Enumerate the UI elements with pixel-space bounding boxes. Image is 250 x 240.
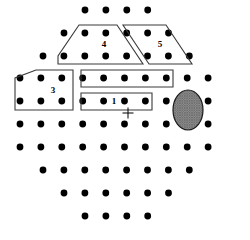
lattice-dot bbox=[82, 190, 89, 197]
lattice-dot bbox=[82, 30, 89, 37]
lattice-dot bbox=[58, 75, 65, 82]
lattice-dot bbox=[79, 121, 86, 128]
lattice-dot bbox=[17, 98, 24, 105]
lattice-dot bbox=[61, 53, 68, 60]
lattice-dot bbox=[81, 167, 88, 174]
lattice-dot bbox=[82, 213, 89, 220]
lattice-dot bbox=[121, 144, 128, 151]
lattice-dot bbox=[58, 144, 65, 151]
lattice-dot bbox=[103, 213, 110, 220]
lattice-dot bbox=[186, 167, 193, 174]
lattice-dot bbox=[61, 30, 68, 37]
dot-lattice-diagram: 12345 bbox=[0, 0, 250, 240]
figure-canvas: 12345 bbox=[0, 0, 250, 240]
lattice-dot bbox=[102, 190, 109, 197]
lattice-dot bbox=[100, 75, 107, 82]
region-labels: 12345 bbox=[51, 39, 163, 106]
lattice-dot bbox=[184, 144, 191, 151]
lattice-dot bbox=[144, 30, 151, 37]
lattice-dot bbox=[102, 167, 109, 174]
crosshair-marker bbox=[123, 108, 134, 119]
lattice-dot bbox=[163, 121, 170, 128]
hatched-ellipse bbox=[173, 90, 203, 130]
lattice-dot bbox=[163, 75, 170, 82]
region-label-5: 5 bbox=[158, 39, 163, 49]
hatched-blob-marker bbox=[173, 90, 203, 130]
region-label-2: 2 bbox=[123, 73, 128, 83]
lattice-dot bbox=[142, 75, 149, 82]
lattice-dot bbox=[79, 75, 86, 82]
lattice-dot bbox=[38, 144, 45, 151]
region-label-4: 4 bbox=[102, 39, 107, 49]
lattice-dot bbox=[17, 144, 24, 151]
region-label-1: 1 bbox=[112, 96, 117, 106]
lattice-dot bbox=[123, 213, 130, 220]
lattice-dot bbox=[163, 144, 170, 151]
lattice-dot bbox=[144, 213, 151, 220]
lattice-dot bbox=[100, 98, 107, 105]
lattice-dot bbox=[40, 53, 47, 60]
lattice-dot bbox=[144, 7, 151, 14]
lattice-dot bbox=[123, 7, 130, 14]
lattice-dot bbox=[165, 53, 172, 60]
lattice-dot bbox=[144, 167, 151, 174]
lattice-dot bbox=[102, 53, 109, 60]
lattice-dot bbox=[123, 53, 130, 60]
lattice-dot bbox=[61, 167, 68, 174]
region-label-3: 3 bbox=[51, 85, 56, 95]
lattice-dot bbox=[121, 98, 128, 105]
lattice-dot bbox=[184, 75, 191, 82]
lattice-dot bbox=[165, 190, 172, 197]
lattice-dot bbox=[142, 98, 149, 105]
lattice-dot bbox=[103, 7, 110, 14]
lattice-dot bbox=[58, 121, 65, 128]
lattice-dot bbox=[82, 7, 89, 14]
lattice-dot bbox=[123, 190, 130, 197]
lattice-dot bbox=[144, 190, 151, 197]
lattice-dot bbox=[102, 30, 109, 37]
lattice-dot bbox=[79, 144, 86, 151]
lattice-dot bbox=[205, 98, 212, 105]
lattice-dot bbox=[58, 98, 65, 105]
lattice-dot bbox=[38, 75, 45, 82]
lattice-dot bbox=[40, 167, 47, 174]
lattice-dot bbox=[163, 98, 170, 105]
lattice-dot bbox=[79, 98, 86, 105]
lattice-dot bbox=[100, 144, 107, 151]
lattice-dot bbox=[17, 121, 24, 128]
region-outline-1 bbox=[81, 93, 152, 110]
lattice-dot bbox=[165, 167, 172, 174]
lattice-dot bbox=[38, 121, 45, 128]
region-outlines bbox=[15, 25, 192, 110]
lattice-dot bbox=[100, 121, 107, 128]
crosshair-plus bbox=[123, 108, 134, 119]
lattice-dot bbox=[123, 167, 130, 174]
lattice-dot bbox=[81, 53, 88, 60]
lattice-dot bbox=[38, 98, 45, 105]
lattice-dot bbox=[142, 144, 149, 151]
lattice-dot bbox=[205, 144, 212, 151]
lattice-dot bbox=[205, 75, 212, 82]
lattice-dot bbox=[121, 121, 128, 128]
lattice-dot bbox=[61, 190, 68, 197]
region-outline-4 bbox=[58, 25, 143, 64]
lattice-dot bbox=[205, 121, 212, 128]
lattice-dot bbox=[142, 121, 149, 128]
